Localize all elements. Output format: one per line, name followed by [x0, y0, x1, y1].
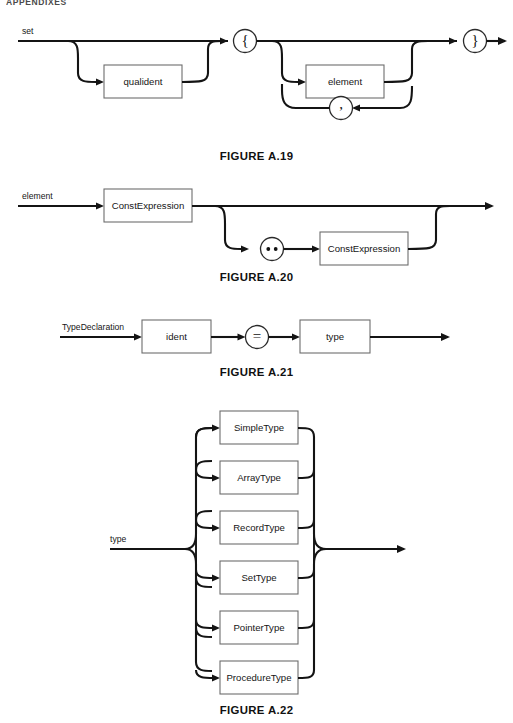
terminal-dotdot-glyph-left [266, 247, 270, 251]
arrow-into-equals [238, 334, 246, 341]
box-qualident-label: qualident [124, 76, 163, 87]
terminal-dotdot-circle [261, 238, 284, 261]
arrow-exit-a21 [441, 333, 450, 341]
terminal-comma-label: , [339, 96, 343, 112]
box-settype-label: SetType [241, 572, 276, 583]
entry-label-typedeclaration: TypeDeclaration [62, 322, 124, 332]
arrow-into-dotdot [241, 246, 249, 253]
arrow-into-constexpr-1 [96, 203, 104, 210]
arrow-exit-a20 [485, 202, 494, 210]
diagram-a22: type SimpleType ArrayType RecordType Set… [0, 400, 513, 700]
arrow-exit-a19 [498, 37, 507, 45]
diagram-a21: TypeDeclaration ident = type [0, 310, 513, 370]
box-element-label: element [328, 76, 362, 87]
box-proceduretype-label: ProcedureType [226, 672, 291, 683]
terminal-dotdot-glyph-right [274, 247, 278, 251]
arrow-into-ident [134, 334, 142, 341]
terminal-equals-label: = [253, 328, 261, 344]
arrow-into-element [298, 79, 306, 86]
arrow-into-constexpr-2 [312, 246, 320, 253]
box-pointertype-label: PointerType [233, 622, 284, 633]
arrow-comma-loop [352, 105, 360, 112]
caption-a20: FIGURE A.20 [0, 271, 513, 283]
box-type-label: type [326, 331, 344, 342]
box-constexpression-1-label: ConstExpression [112, 200, 185, 211]
arrow-exit-a22 [397, 545, 406, 553]
appendix-page: APPENDIXES qualident { element , [0, 0, 513, 723]
box-constexpression-2-label: ConstExpression [328, 243, 401, 254]
diagram-a20: element ConstExpression ConstExpression [0, 180, 513, 280]
box-recordtype-label: RecordType [233, 522, 285, 533]
caption-a22: FIGURE A.22 [0, 704, 513, 716]
caption-a19: FIGURE A.19 [0, 150, 513, 162]
terminal-rbrace-label: } [471, 32, 478, 48]
entry-label-set: set [22, 26, 34, 36]
box-arraytype-label: ArrayType [237, 472, 281, 483]
entry-label-element: element [22, 191, 53, 201]
running-head: APPENDIXES [6, 0, 67, 7]
terminal-lbrace-label: { [241, 32, 248, 48]
diagram-a19: qualident { element , } set [0, 18, 513, 148]
box-ident-label: ident [166, 331, 187, 342]
caption-a21: FIGURE A.21 [0, 366, 513, 378]
box-simpletype-label: SimpleType [234, 422, 284, 433]
arrow-into-rbrace [449, 38, 457, 45]
entry-label-type: type [110, 534, 126, 544]
arrow-into-qualident [96, 79, 104, 86]
arrow-into-type [292, 334, 300, 341]
